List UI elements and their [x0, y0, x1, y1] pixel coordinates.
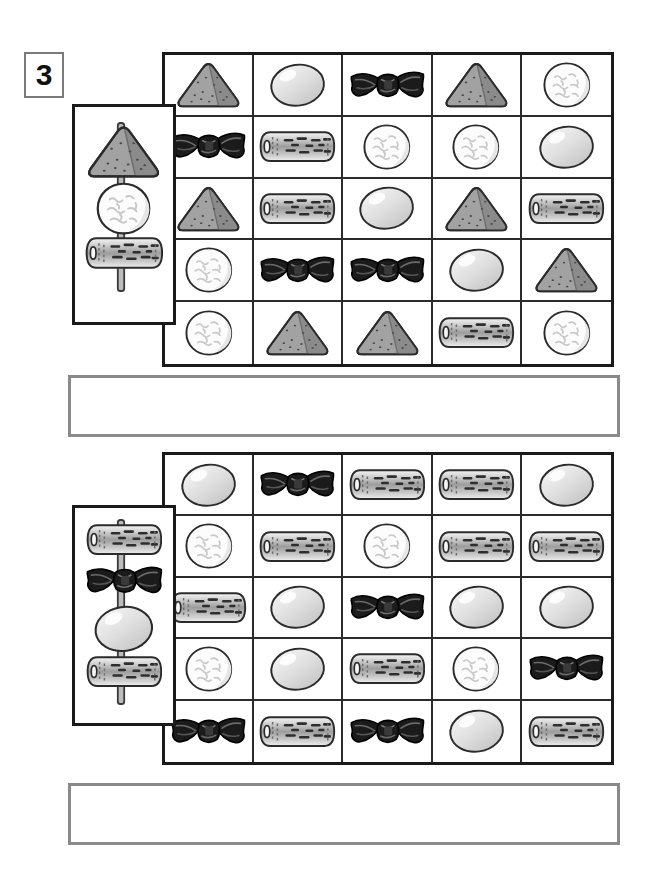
kombu-knot-bow-icon [349, 589, 426, 626]
chikuwa-fish-cake-log-icon [259, 129, 336, 164]
exercise-number-label: 3 [36, 60, 53, 90]
grid-cell[interactable] [522, 240, 611, 302]
kombu-knot-bow-icon [259, 466, 336, 503]
rice-triangle-onigiri-icon [353, 308, 422, 358]
grid-cell[interactable] [343, 516, 432, 577]
grid-cell[interactable] [165, 701, 254, 762]
chikuwa-fish-cake-log-icon [75, 654, 173, 689]
rice-triangle-onigiri-icon [263, 308, 332, 358]
grid-cell[interactable] [522, 639, 611, 700]
grid-cell[interactable] [343, 302, 432, 364]
boiled-egg-icon [268, 646, 327, 692]
grid-cell[interactable] [343, 240, 432, 302]
grid-cell[interactable] [433, 455, 522, 516]
white-rice-ball-icon [75, 181, 173, 236]
grid-cell[interactable] [165, 516, 254, 577]
white-rice-ball-icon [451, 123, 501, 171]
grid-cell[interactable] [165, 117, 254, 179]
grid-cell[interactable] [343, 55, 432, 117]
boiled-egg-icon [537, 462, 596, 508]
grid-cell[interactable] [254, 240, 343, 302]
grid-cell[interactable] [165, 455, 254, 516]
boiled-egg-icon [447, 247, 506, 293]
answer-box-2[interactable] [68, 783, 620, 845]
grid-cell[interactable] [522, 701, 611, 762]
puzzle-grid-1 [162, 52, 614, 367]
chikuwa-fish-cake-log-icon [75, 522, 173, 557]
answer-box-1[interactable] [68, 375, 620, 437]
kombu-knot-bow-icon [349, 252, 426, 289]
grid-cell[interactable] [254, 179, 343, 241]
grid-cell[interactable] [433, 578, 522, 639]
boiled-egg-icon [268, 62, 327, 108]
chikuwa-fish-cake-log-icon [75, 235, 173, 271]
kombu-knot-bow-icon [170, 128, 247, 165]
grid-cell[interactable] [254, 701, 343, 762]
grid-cell[interactable] [254, 578, 343, 639]
white-rice-ball-icon [184, 309, 234, 357]
grid-cell[interactable] [433, 117, 522, 179]
white-rice-ball-icon [184, 522, 234, 570]
chikuwa-fish-cake-log-icon [438, 467, 515, 502]
worksheet-page: 3 [0, 0, 654, 886]
boiled-egg-icon [179, 462, 238, 508]
grid-cell[interactable] [433, 240, 522, 302]
chikuwa-fish-cake-log-icon [259, 191, 336, 226]
chikuwa-fish-cake-log-icon [259, 529, 336, 564]
chikuwa-fish-cake-log-icon [528, 714, 605, 749]
white-rice-ball-icon [451, 645, 501, 693]
kombu-knot-bow-icon [170, 713, 247, 750]
chikuwa-fish-cake-log-icon [528, 191, 605, 226]
grid-cell[interactable] [433, 639, 522, 700]
grid-cell[interactable] [433, 55, 522, 117]
kombu-knot-bow-icon [528, 650, 605, 687]
rice-triangle-onigiri-icon [442, 184, 511, 234]
grid-cell[interactable] [254, 639, 343, 700]
grid-cell[interactable] [343, 455, 432, 516]
grid-cell[interactable] [522, 117, 611, 179]
grid-cell[interactable] [522, 302, 611, 364]
grid-cell[interactable] [254, 516, 343, 577]
grid-cell[interactable] [522, 55, 611, 117]
grid-cell[interactable] [343, 117, 432, 179]
grid-cell[interactable] [165, 578, 254, 639]
rice-triangle-onigiri-icon [174, 184, 243, 234]
kombu-knot-bow-icon [349, 713, 426, 750]
grid-cell[interactable] [165, 302, 254, 364]
grid-cell[interactable] [254, 117, 343, 179]
grid-cell[interactable] [522, 516, 611, 577]
chikuwa-fish-cake-log-icon [438, 315, 515, 350]
chikuwa-fish-cake-log-icon [170, 590, 247, 625]
grid-cell[interactable] [343, 639, 432, 700]
boiled-egg-icon [357, 185, 416, 231]
boiled-egg-icon [537, 584, 596, 630]
grid-cell[interactable] [433, 302, 522, 364]
chikuwa-fish-cake-log-icon [259, 714, 336, 749]
grid-cell[interactable] [165, 179, 254, 241]
chikuwa-fish-cake-log-icon [349, 651, 426, 686]
chikuwa-fish-cake-log-icon [528, 529, 605, 564]
grid-cell[interactable] [343, 179, 432, 241]
grid-cell[interactable] [165, 639, 254, 700]
grid-cell[interactable] [522, 578, 611, 639]
grid-cell[interactable] [343, 701, 432, 762]
grid-cell[interactable] [165, 240, 254, 302]
white-rice-ball-icon [542, 61, 592, 109]
boiled-egg-icon [537, 124, 596, 170]
chikuwa-fish-cake-log-icon [438, 529, 515, 564]
grid-cell[interactable] [343, 578, 432, 639]
boiled-egg-icon [268, 584, 327, 630]
boiled-egg-icon [447, 584, 506, 630]
grid-cell[interactable] [433, 179, 522, 241]
grid-cell[interactable] [433, 516, 522, 577]
grid-cell[interactable] [165, 55, 254, 117]
rice-triangle-onigiri-icon [75, 123, 173, 180]
grid-cell[interactable] [433, 701, 522, 762]
exercise-number-badge: 3 [24, 52, 64, 98]
grid-cell[interactable] [254, 302, 343, 364]
grid-cell[interactable] [254, 455, 343, 516]
grid-cell[interactable] [522, 179, 611, 241]
grid-cell[interactable] [254, 55, 343, 117]
grid-cell[interactable] [522, 455, 611, 516]
kombu-knot-bow-icon [349, 67, 426, 104]
